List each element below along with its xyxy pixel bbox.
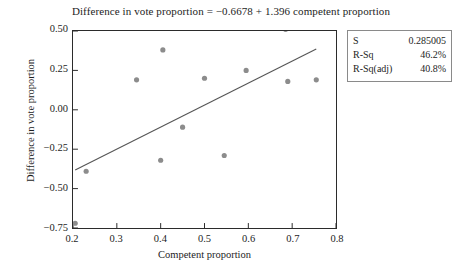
statistics-value: 40.8%	[420, 62, 446, 76]
axis-tick-marks	[73, 31, 336, 228]
data-point	[160, 47, 165, 52]
data-point	[222, 153, 227, 158]
x-tick-label: 0.5	[185, 234, 225, 245]
x-tick-label: 0.6	[229, 234, 269, 245]
x-tick-label: 0.4	[140, 234, 180, 245]
y-tick-label: −0.75	[28, 223, 68, 234]
data-point	[73, 221, 78, 226]
data-point	[285, 79, 290, 84]
statistics-box: S0.285005R-Sq46.2%R-Sq(adj)40.8%	[347, 30, 452, 82]
x-tick-label: 0.8	[317, 234, 357, 245]
data-point	[244, 68, 249, 73]
y-axis-title: Difference in vote proportion	[25, 21, 36, 221]
plot-canvas	[73, 31, 336, 228]
x-axis-tick-labels: 0.20.30.40.50.60.70.8	[72, 234, 337, 248]
statistics-value: 0.285005	[409, 34, 447, 48]
data-point	[283, 31, 288, 32]
chart-title: Difference in vote proportion = −0.6678 …	[0, 5, 462, 17]
regression-line	[75, 49, 316, 170]
x-tick-label: 0.2	[52, 234, 92, 245]
statistics-row: S0.285005	[353, 34, 446, 48]
data-point	[314, 77, 319, 82]
x-tick-label: 0.7	[273, 234, 313, 245]
data-point	[84, 169, 89, 174]
data-point	[134, 77, 139, 82]
scatter-plot-figure: Difference in vote proportion = −0.6678 …	[0, 0, 462, 266]
statistics-label: R-Sq(adj)	[353, 62, 392, 76]
data-point	[180, 125, 185, 130]
statistics-label: R-Sq	[353, 48, 374, 62]
x-tick-label: 0.3	[96, 234, 136, 245]
x-axis-title: Competent proportion	[72, 249, 337, 260]
data-point-group	[73, 31, 319, 226]
statistics-row: R-Sq46.2%	[353, 48, 446, 62]
data-point	[202, 76, 207, 81]
statistics-label: S	[353, 34, 359, 48]
data-point	[158, 158, 163, 163]
statistics-row: R-Sq(adj)40.8%	[353, 62, 446, 76]
statistics-value: 46.2%	[420, 48, 446, 62]
plot-area	[72, 30, 337, 229]
